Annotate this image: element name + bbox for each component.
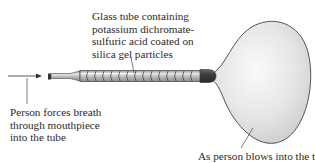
breath-arrow-icon [8,74,42,79]
tube-label-line: Glass tube containing [92,10,194,23]
breath-label: Person forces breath through mouthpiece … [10,106,101,144]
bag-label-line: As person blows into the tube, [198,150,315,163]
mouthpiece [48,71,80,81]
tube-label-line: sulfuric acid coated on [92,35,194,48]
collection-bag [212,21,311,143]
tube-label-line: silica gel particles [92,48,194,61]
breath-label-line: Person forces breath [10,106,101,119]
breath-label-line: through mouthpiece [10,119,101,132]
glass-tube [80,71,204,82]
tube-label-line: potassium dichromate- [92,23,194,36]
connector-cap [200,70,216,83]
tube-label: Glass tube containing potassium dichroma… [92,10,194,60]
breath-label-line: into the tube [10,131,101,144]
bag-label: As person blows into the tube, [198,150,315,163]
